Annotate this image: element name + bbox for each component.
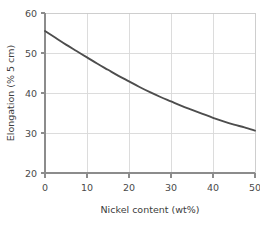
- x-tick-label-0: 0: [42, 182, 48, 193]
- x-tick-label-50: 50: [249, 182, 260, 193]
- y-tick-label-30: 30: [25, 128, 37, 139]
- chart-container: 60 50 40 30 20 0 10 20 30 40 50 Nickel c…: [0, 0, 260, 230]
- y-axis-tick-labels: 60 50 40 30 20: [25, 8, 37, 179]
- x-tick-label-30: 30: [165, 182, 177, 193]
- elongation-vs-nickel-chart: 60 50 40 30 20 0 10 20 30 40 50 Nickel c…: [0, 0, 260, 230]
- y-tick-label-50: 50: [25, 48, 37, 59]
- x-axis-title: Nickel content (wt%): [101, 204, 200, 215]
- y-axis-ticks: [41, 13, 45, 173]
- x-axis-tick-labels: 0 10 20 30 40 50: [42, 182, 260, 193]
- x-tick-label-10: 10: [81, 182, 93, 193]
- y-tick-label-40: 40: [25, 88, 37, 99]
- y-tick-label-20: 20: [25, 168, 37, 179]
- y-tick-label-60: 60: [25, 8, 37, 19]
- x-tick-label-40: 40: [207, 182, 219, 193]
- x-axis-ticks: [45, 173, 255, 178]
- x-tick-label-20: 20: [123, 182, 135, 193]
- y-axis-title: Elongation (% 5 cm): [5, 45, 16, 142]
